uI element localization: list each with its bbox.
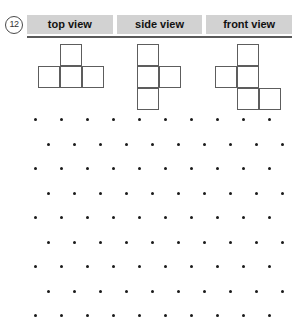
grid-dot [255,241,258,244]
grid-dot [151,241,154,244]
grid-dot [190,167,193,170]
grid-dot [190,216,193,219]
grid-dot [203,290,206,293]
shape-cell [137,66,159,88]
grid-dot [73,290,76,293]
grid-dot [177,290,180,293]
grid-dot [151,143,154,146]
grid-dot [203,143,206,146]
grid-dot [229,241,232,244]
shape-cell [38,66,60,88]
figure-side-view [115,42,203,110]
shape-cell [82,66,104,88]
grid-dot [60,167,63,170]
grid-dot [86,167,89,170]
grid-dot [138,167,141,170]
side-view-shape [137,44,181,110]
grid-dot [86,265,89,268]
shape-cell [137,88,159,110]
header-cell-side-view: side view [117,15,203,34]
grid-dot [138,216,141,219]
grid-dot [73,241,76,244]
grid-dot [34,216,37,219]
grid-dot [125,241,128,244]
grid-dot [216,118,219,121]
grid-dot [34,314,37,317]
grid-dot [99,241,102,244]
header-divider-rule [27,36,292,38]
grid-dot [112,118,115,121]
grid-dot [60,314,63,317]
header-cell-front-view: front view [206,15,292,34]
header-cell-top-view: top view [27,15,113,34]
grid-dot [268,118,271,121]
grid-dot [86,118,89,121]
grid-dot [229,143,232,146]
grid-dot [216,216,219,219]
grid-dot [47,290,50,293]
grid-dot [268,216,271,219]
grid-dot [268,265,271,268]
grid-dot [255,143,258,146]
grid-dot [86,216,89,219]
grid-dot [47,192,50,195]
grid-dot [203,241,206,244]
grid-dot [112,265,115,268]
grid-dot [112,167,115,170]
grid-dot [281,241,284,244]
grid-dot [255,290,258,293]
grid-dot [203,192,206,195]
grid-dot [112,314,115,317]
grid-dot [86,314,89,317]
grid-dot [34,265,37,268]
top-view-shape [38,44,104,88]
worksheet-page: 12 top view side view front view [0,0,298,331]
figure-top-view [27,42,115,110]
grid-dot [60,216,63,219]
shape-cell [159,66,181,88]
grid-dot [268,314,271,317]
grid-dot [177,192,180,195]
grid-dot [216,167,219,170]
grid-dot [242,314,245,317]
grid-dot [125,143,128,146]
grid-dot [177,241,180,244]
shape-cell [215,66,237,88]
grid-dot [164,265,167,268]
grid-dot [99,290,102,293]
grid-dot [47,241,50,244]
grid-dot [34,118,37,121]
grid-dot [112,216,115,219]
grid-dot [151,290,154,293]
grid-dot [138,265,141,268]
grid-dot [125,290,128,293]
grid-dot [216,265,219,268]
grid-dot [190,118,193,121]
grid-dot [268,167,271,170]
problem-number: 12 [5,16,23,34]
grid-dot [60,265,63,268]
grid-dot [138,118,141,121]
grid-dot [281,192,284,195]
front-view-shape [215,44,281,110]
grid-dot [177,143,180,146]
shape-cell [60,66,82,88]
grid-dot [242,118,245,121]
grid-dot [242,265,245,268]
grid-dot [34,167,37,170]
view-header-row: top view side view front view [27,15,292,34]
grid-dot [190,265,193,268]
grid-dot [164,216,167,219]
grid-dot [216,314,219,317]
shape-cell [237,44,259,66]
grid-dot [47,143,50,146]
grid-dot [281,143,284,146]
shape-cell [237,66,259,88]
grid-dot [229,290,232,293]
grid-dot [190,314,193,317]
shape-cell [259,88,281,110]
grid-dot [229,192,232,195]
grid-dot [255,192,258,195]
grid-dot [99,143,102,146]
grid-dot [125,192,128,195]
